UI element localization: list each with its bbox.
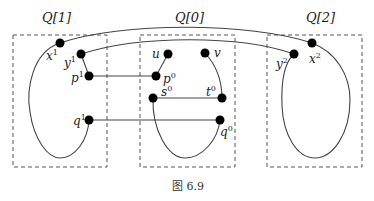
- edge-s0-loop-q0: [153, 98, 220, 158]
- edge-y1-y2: [81, 40, 294, 54]
- label-q0: Q[0]: [175, 10, 205, 25]
- label-q0: q0: [220, 124, 233, 139]
- node-v: [201, 49, 210, 58]
- node-u: [164, 50, 173, 59]
- edge-x2-loop-y2: [282, 43, 350, 158]
- node-p0: [152, 72, 161, 81]
- node-t0: [218, 94, 227, 103]
- label-y2: y2: [275, 56, 288, 71]
- box-q1: [13, 35, 107, 167]
- label-p1: p1: [71, 70, 84, 85]
- label-y1: y1: [63, 55, 76, 70]
- node-y1: [77, 50, 86, 59]
- node-q1: [85, 116, 94, 125]
- edge-x1-loop-q1: [29, 43, 89, 158]
- label-q1: Q[1]: [42, 10, 72, 25]
- node-y2: [290, 50, 299, 59]
- label-q1: q1: [73, 113, 86, 128]
- label-v: v: [214, 46, 221, 60]
- label-s0: s0: [161, 84, 172, 99]
- figure-caption: 图 6.9: [172, 180, 204, 193]
- label-t0: t0: [206, 84, 216, 99]
- node-s0: [149, 94, 158, 103]
- label-x1: x1: [46, 48, 58, 63]
- node-q0: [216, 116, 225, 125]
- nodes: [56, 39, 317, 125]
- diagram-canvas: Q[1] Q[0] Q[2]: [0, 0, 374, 201]
- label-q2: Q[2]: [306, 10, 336, 25]
- label-x2: x2: [309, 51, 321, 66]
- node-labels: x1 y1 p1 q1 u v p0 s0 t0 q0 y2 x2: [46, 46, 321, 139]
- node-x1: [56, 39, 65, 48]
- label-u: u: [152, 47, 160, 61]
- edges: [29, 27, 350, 158]
- node-x2: [308, 39, 317, 48]
- node-p1: [85, 72, 94, 81]
